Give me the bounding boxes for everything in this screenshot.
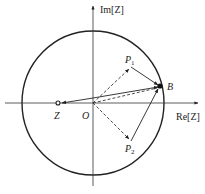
label-o: O <box>82 110 89 121</box>
vector-o-b <box>93 88 157 103</box>
label-b: B <box>167 81 173 92</box>
label-p1: P1 <box>124 54 135 67</box>
point-b <box>157 83 162 88</box>
y-axis-label: Im[Z] <box>100 4 124 15</box>
vector-p1-b <box>131 67 158 85</box>
x-axis-label: Re[Z] <box>176 111 200 122</box>
vector-p2-b <box>131 89 158 141</box>
point-z <box>56 101 60 105</box>
vector-o-p2 <box>93 103 129 139</box>
diagram-svg: Im[Z] Re[Z] B Z O P1 P2 <box>0 0 205 194</box>
label-p2: P2 <box>124 143 135 156</box>
complex-plane-diagram: Im[Z] Re[Z] B Z O P1 P2 <box>0 0 205 194</box>
vector-o-z <box>62 98 93 103</box>
vector-o-p1 <box>93 69 129 103</box>
vector-z-b <box>93 87 158 98</box>
label-z: Z <box>54 110 60 121</box>
